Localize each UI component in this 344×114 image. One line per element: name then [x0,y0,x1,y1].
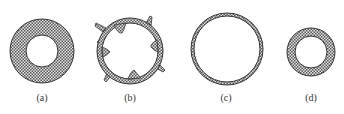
panel-b-label: (b) [124,92,136,104]
panel-a-label: (a) [36,92,47,104]
panel-c-thin-ring [191,13,263,85]
panel-c-label: (c) [220,92,231,104]
panel-a-thick-ring [10,19,74,83]
panel-d-small-ring [287,28,335,76]
panel-b-spiked-ring [95,16,165,84]
panel-d-label: (d) [305,92,317,104]
cross-section-diagram: (a) (b) (c) (d) [0,0,344,114]
